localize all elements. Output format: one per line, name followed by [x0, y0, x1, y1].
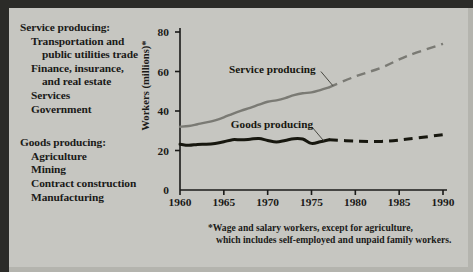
- figure-panel: Service producing: Transportation and pu…: [0, 0, 473, 272]
- leader-line: [312, 127, 324, 141]
- footnote-line-1: *Wage and salary workers, except for agr…: [208, 222, 413, 233]
- line-chart: Workers (millions)* 020406080 1960196519…: [133, 18, 458, 208]
- leader-line: [321, 72, 333, 86]
- figure-right-shade: [468, 8, 473, 272]
- figure-bottom-shade: [9, 267, 473, 272]
- footnote: *Wage and salary workers, except for agr…: [208, 222, 460, 245]
- series-line-solid-goods: [180, 138, 329, 145]
- figure-left-border: [0, 0, 9, 272]
- axes-group: [175, 28, 447, 195]
- series-line-dashed-goods: [329, 135, 443, 142]
- plot-area: [133, 18, 458, 208]
- series-label-service: Service producing: [229, 63, 316, 75]
- series-label-goods: Goods producing: [231, 118, 313, 130]
- series-group: [180, 44, 443, 146]
- figure-top-border: [0, 0, 473, 8]
- footnote-line-2: which includes self-employed and unpaid …: [208, 234, 460, 246]
- series-line-dashed-service: [329, 44, 443, 87]
